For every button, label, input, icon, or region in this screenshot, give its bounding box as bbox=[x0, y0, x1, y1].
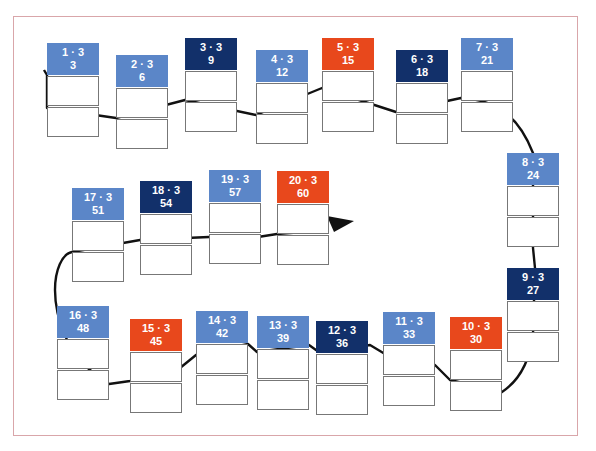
tile-8: 8 · 324 bbox=[507, 153, 559, 247]
tile-14: 14 · 342 bbox=[196, 311, 248, 405]
tile-11: 11 · 333 bbox=[383, 312, 435, 406]
tile-16: 16 · 348 bbox=[57, 306, 109, 400]
answer-box[interactable] bbox=[116, 88, 168, 118]
tile-header: 14 · 342 bbox=[196, 311, 248, 343]
answer-box[interactable] bbox=[507, 217, 559, 247]
arrowhead-icon bbox=[327, 216, 354, 232]
tile-header: 7 · 321 bbox=[461, 38, 513, 70]
tile-18: 18 · 354 bbox=[140, 181, 192, 275]
tile-5: 5 · 315 bbox=[322, 38, 374, 132]
tile-header: 11 · 333 bbox=[383, 312, 435, 344]
answer-box[interactable] bbox=[461, 102, 513, 132]
tile-4: 4 · 312 bbox=[256, 50, 308, 144]
tile-header: 6 · 318 bbox=[396, 50, 448, 82]
answer-box[interactable] bbox=[507, 186, 559, 216]
tile-header: 5 · 315 bbox=[322, 38, 374, 70]
answer-box[interactable] bbox=[196, 344, 248, 374]
answer-box[interactable] bbox=[185, 102, 237, 132]
tile-19: 19 · 357 bbox=[209, 170, 261, 264]
answer-box[interactable] bbox=[47, 107, 99, 137]
answer-box[interactable] bbox=[209, 234, 261, 264]
answer-box[interactable] bbox=[47, 76, 99, 106]
tile-header: 15 · 345 bbox=[130, 319, 182, 351]
tile-2: 2 · 36 bbox=[116, 55, 168, 149]
tile-header: 9 · 327 bbox=[507, 268, 559, 300]
answer-box[interactable] bbox=[507, 301, 559, 331]
answer-box[interactable] bbox=[450, 381, 502, 411]
answer-box[interactable] bbox=[130, 352, 182, 382]
answer-box[interactable] bbox=[185, 71, 237, 101]
answer-box[interactable] bbox=[316, 354, 368, 384]
answer-box[interactable] bbox=[72, 252, 124, 282]
answer-box[interactable] bbox=[507, 332, 559, 362]
answer-box[interactable] bbox=[277, 235, 329, 265]
answer-box[interactable] bbox=[140, 245, 192, 275]
tile-header: 20 · 360 bbox=[277, 171, 329, 203]
tile-1: 1 · 33 bbox=[47, 43, 99, 137]
tile-header: 16 · 348 bbox=[57, 306, 109, 338]
tile-header: 1 · 33 bbox=[47, 43, 99, 75]
answer-box[interactable] bbox=[322, 102, 374, 132]
tile-17: 17 · 351 bbox=[72, 188, 124, 282]
answer-box[interactable] bbox=[209, 203, 261, 233]
answer-box[interactable] bbox=[396, 114, 448, 144]
answer-box[interactable] bbox=[256, 114, 308, 144]
tile-header: 18 · 354 bbox=[140, 181, 192, 213]
answer-box[interactable] bbox=[396, 83, 448, 113]
answer-box[interactable] bbox=[196, 375, 248, 405]
answer-box[interactable] bbox=[140, 214, 192, 244]
tile-header: 17 · 351 bbox=[72, 188, 124, 220]
tile-header: 4 · 312 bbox=[256, 50, 308, 82]
tile-header: 3 · 39 bbox=[185, 38, 237, 70]
tile-13: 13 · 339 bbox=[257, 316, 309, 410]
answer-box[interactable] bbox=[461, 71, 513, 101]
tile-7: 7 · 321 bbox=[461, 38, 513, 132]
tile-9: 9 · 327 bbox=[507, 268, 559, 362]
tile-15: 15 · 345 bbox=[130, 319, 182, 413]
tile-header: 12 · 336 bbox=[316, 321, 368, 353]
answer-box[interactable] bbox=[277, 204, 329, 234]
tile-header: 2 · 36 bbox=[116, 55, 168, 87]
tile-header: 19 · 357 bbox=[209, 170, 261, 202]
answer-box[interactable] bbox=[450, 350, 502, 380]
tile-header: 13 · 339 bbox=[257, 316, 309, 348]
answer-box[interactable] bbox=[57, 370, 109, 400]
answer-box[interactable] bbox=[383, 376, 435, 406]
answer-box[interactable] bbox=[322, 71, 374, 101]
tile-12: 12 · 336 bbox=[316, 321, 368, 415]
answer-box[interactable] bbox=[383, 345, 435, 375]
tile-6: 6 · 318 bbox=[396, 50, 448, 144]
answer-box[interactable] bbox=[316, 385, 368, 415]
tile-header: 10 · 330 bbox=[450, 317, 502, 349]
answer-box[interactable] bbox=[257, 349, 309, 379]
tile-header: 8 · 324 bbox=[507, 153, 559, 185]
tile-10: 10 · 330 bbox=[450, 317, 502, 411]
answer-box[interactable] bbox=[257, 380, 309, 410]
answer-box[interactable] bbox=[57, 339, 109, 369]
answer-box[interactable] bbox=[256, 83, 308, 113]
answer-box[interactable] bbox=[130, 383, 182, 413]
tile-20: 20 · 360 bbox=[277, 171, 329, 265]
answer-box[interactable] bbox=[116, 119, 168, 149]
answer-box[interactable] bbox=[72, 221, 124, 251]
tile-3: 3 · 39 bbox=[185, 38, 237, 132]
